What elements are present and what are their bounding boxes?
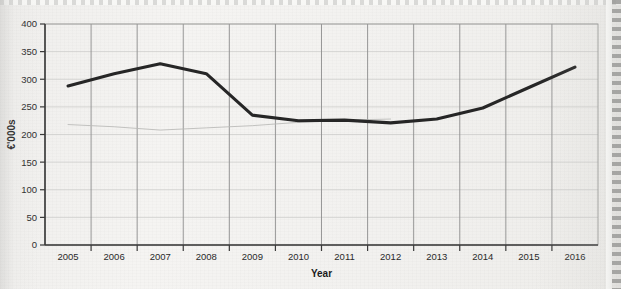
x-tick-label: 2013 <box>426 251 447 262</box>
y-tick-label: 350 <box>21 46 37 57</box>
y-axis-title: €'000s <box>6 119 17 150</box>
x-axis-title: Year <box>311 268 332 279</box>
x-tick-label: 2005 <box>57 251 78 262</box>
y-tick-label: 150 <box>21 157 37 168</box>
x-tick-label: 2008 <box>196 251 217 262</box>
y-tick-label: 300 <box>21 74 37 85</box>
x-tick-label: 2009 <box>242 251 263 262</box>
y-tick-label: 200 <box>21 129 37 140</box>
y-tick-label: 50 <box>26 212 37 223</box>
x-tick-label: 2007 <box>150 251 171 262</box>
chart-page: 050100150200250300350400 200520062007200… <box>0 0 621 289</box>
y-tick-label: 100 <box>21 184 37 195</box>
chart-svg: 050100150200250300350400 200520062007200… <box>0 0 621 289</box>
y-axis-tick-labels: 050100150200250300350400 <box>21 18 37 250</box>
perforated-edge-strip <box>612 0 621 289</box>
x-tick-label: 2006 <box>104 251 125 262</box>
x-tick-label: 2011 <box>334 251 354 262</box>
y-tick-label: 250 <box>21 101 37 112</box>
x-tick-label: 2014 <box>472 251 493 262</box>
x-tick-label: 2015 <box>518 251 539 262</box>
line-chart: 050100150200250300350400 200520062007200… <box>0 0 621 289</box>
y-tick-label: 0 <box>32 239 37 250</box>
x-tick-label: 2012 <box>380 251 401 262</box>
y-tick-label: 400 <box>21 18 37 29</box>
x-tick-label: 2010 <box>288 251 309 262</box>
x-tick-label: 2016 <box>564 251 585 262</box>
x-axis-tick-labels: 2005200620072008200920102011201220132014… <box>57 251 585 262</box>
